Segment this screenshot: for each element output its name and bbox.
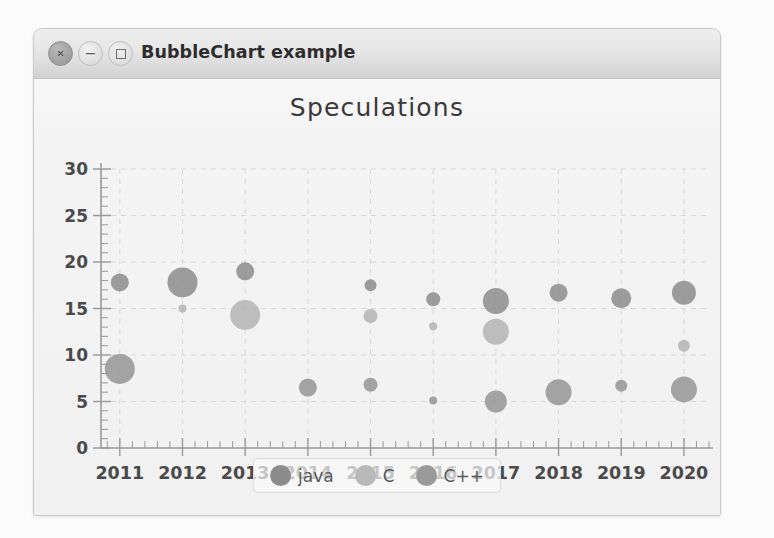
grid-lines	[101, 169, 709, 448]
window-title: BubbleChart example	[141, 42, 355, 62]
y-tick-label: 15	[64, 299, 88, 319]
bubble-java	[167, 267, 197, 297]
chart-legend[interactable]: javaCC++	[253, 458, 501, 493]
y-tick-label: 30	[64, 159, 88, 179]
screenshot-root: ✕ — BubbleChart example Speculations 051…	[0, 0, 774, 538]
legend-item-Cplusplus[interactable]: C++	[416, 465, 484, 486]
x-tick-label: 2020	[660, 463, 709, 483]
bubble-C++	[546, 379, 572, 405]
y-tick-label: 20	[64, 252, 88, 272]
y-tick-label: 25	[64, 206, 88, 226]
y-tick-label: 10	[64, 345, 88, 365]
y-tick-label: 5	[76, 392, 88, 412]
close-button[interactable]: ✕	[48, 41, 73, 66]
legend-swatch-icon	[355, 465, 376, 486]
data-points	[105, 262, 697, 412]
legend-swatch-icon	[416, 465, 437, 486]
window-titlebar[interactable]: ✕ — BubbleChart example	[34, 29, 720, 79]
legend-label: java	[298, 466, 334, 486]
window-content: Speculations 051015202530201120122013201…	[34, 79, 720, 515]
maximize-icon	[116, 49, 126, 59]
bubble-C++	[299, 379, 317, 397]
x-tick-label: 2019	[597, 463, 646, 483]
bubble-java	[365, 279, 377, 291]
minimize-icon: —	[86, 49, 96, 59]
bubble-C	[429, 322, 437, 330]
bubble-C	[230, 300, 260, 330]
bubble-C	[364, 309, 378, 323]
legend-item-java[interactable]: java	[270, 465, 334, 486]
bubble-C++	[485, 391, 507, 413]
bubble-chart: 0510152025302011201220132014201520162017…	[34, 79, 720, 515]
bubble-java	[236, 262, 254, 280]
x-tick-label: 2011	[95, 463, 144, 483]
bubble-C++	[615, 380, 627, 392]
bubble-C++	[429, 397, 437, 405]
bubble-C	[483, 319, 509, 345]
bubble-java	[426, 292, 440, 306]
x-tick-label: 2012	[158, 463, 207, 483]
bubble-java	[483, 288, 509, 314]
bubble-java	[550, 284, 568, 302]
legend-label: C	[383, 466, 395, 486]
tick-labels: 0510152025302011201220132014201520162017…	[64, 159, 708, 483]
bubble-java	[111, 273, 129, 291]
bubble-java	[611, 288, 631, 308]
bubble-C++	[364, 378, 378, 392]
legend-item-C[interactable]: C	[355, 465, 395, 486]
bubble-C++	[105, 354, 135, 384]
x-tick-label: 2018	[534, 463, 583, 483]
application-window: ✕ — BubbleChart example Speculations 051…	[33, 28, 721, 516]
legend-swatch-icon	[270, 465, 291, 486]
window-controls: ✕ —	[48, 41, 133, 66]
bubble-C++	[671, 376, 697, 402]
minimize-button[interactable]: —	[78, 41, 103, 66]
chart-canvas: 0510152025302011201220132014201520162017…	[34, 79, 720, 515]
bubble-C	[178, 305, 186, 313]
close-icon: ✕	[56, 49, 64, 59]
y-tick-label: 0	[76, 438, 88, 458]
bubble-java	[672, 281, 696, 305]
bubble-C	[678, 340, 690, 352]
legend-label: C++	[444, 466, 484, 486]
maximize-button[interactable]	[108, 41, 133, 66]
